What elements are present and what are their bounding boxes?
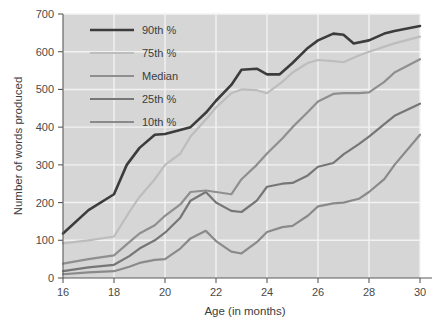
y-axis-title: Number of words produced xyxy=(12,77,24,216)
y-tick-label: 300 xyxy=(36,159,54,171)
y-tick-label: 100 xyxy=(36,234,54,246)
y-tick-label: 200 xyxy=(36,197,54,209)
x-tick-label: 22 xyxy=(210,286,222,298)
x-tick-label: 26 xyxy=(312,286,324,298)
x-tick-label: 20 xyxy=(159,286,171,298)
legend-label-25th: 25th % xyxy=(142,93,176,105)
line-chart: 0100200300400500600700 1618202224262830 … xyxy=(0,0,439,321)
legend-label-90th: 90th % xyxy=(142,24,176,36)
legend-label-median: Median xyxy=(142,70,178,82)
chart-container: 0100200300400500600700 1618202224262830 … xyxy=(0,0,439,321)
y-tick-label: 600 xyxy=(36,46,54,58)
y-tick-label: 700 xyxy=(36,8,54,20)
x-tick-label: 30 xyxy=(414,286,426,298)
legend-label-75th: 75th % xyxy=(142,47,176,59)
legend-label-10th: 10th % xyxy=(142,116,176,128)
x-tick-label: 18 xyxy=(108,286,120,298)
x-tick-label: 24 xyxy=(261,286,273,298)
y-tick-label: 0 xyxy=(48,272,54,284)
y-tick-label: 400 xyxy=(36,121,54,133)
y-tick-label: 500 xyxy=(36,83,54,95)
x-tick-label: 28 xyxy=(363,286,375,298)
x-tick-label: 16 xyxy=(57,286,69,298)
x-axis-title: Age (in months) xyxy=(204,305,285,317)
